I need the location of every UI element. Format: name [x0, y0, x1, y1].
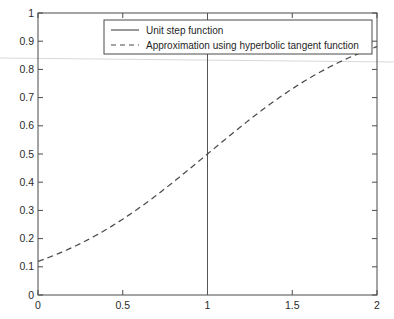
y-tick-label: 0.5 [19, 148, 34, 160]
x-tick-label: 0.5 [115, 299, 130, 311]
x-tick-label: 1.5 [285, 299, 300, 311]
y-axis-tick-labels: 0 0.1 0.2 0.3 0.4 0.5 0.6 0.7 0.8 0.9 1 [19, 7, 34, 301]
x-axis-tick-labels: 0 0.5 1 1.5 2 [35, 299, 380, 311]
y-tick-label: 0 [28, 289, 34, 301]
y-tick-label: 0.3 [19, 204, 34, 216]
scan-artifact-line [0, 58, 394, 62]
legend-entry-label: Unit step function [146, 25, 223, 36]
x-tick-label: 2 [374, 299, 380, 311]
y-tick-label: 0.4 [19, 176, 34, 188]
x-tick-label: 1 [205, 299, 211, 311]
y-tick-label: 0.1 [19, 260, 34, 272]
x-tick-label: 0 [35, 299, 41, 311]
y-tick-label: 1 [28, 7, 34, 19]
series-group [38, 13, 377, 295]
y-tick-label: 0.9 [19, 35, 34, 47]
chart-legend: Unit step function Approximation using h… [104, 20, 372, 54]
y-tick-label: 0.6 [19, 119, 34, 131]
legend-entry-label: Approximation using hyperbolic tangent f… [146, 40, 359, 51]
chart-figure: 0 0.1 0.2 0.3 0.4 0.5 0.6 0.7 0.8 0.9 1 … [0, 0, 394, 319]
y-tick-label: 0.2 [19, 232, 34, 244]
chart-canvas: 0 0.1 0.2 0.3 0.4 0.5 0.6 0.7 0.8 0.9 1 … [0, 0, 394, 319]
y-tick-label: 0.7 [19, 91, 34, 103]
y-tick-label: 0.8 [19, 63, 34, 75]
